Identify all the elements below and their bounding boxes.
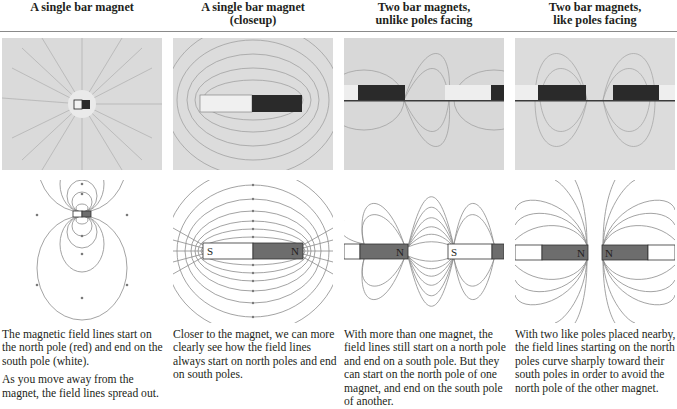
caption-paragraph: Closer to the magnet, we can more clearl… — [173, 328, 338, 382]
north-label-right: N — [605, 247, 613, 259]
field-line-diagram: N N — [515, 180, 675, 323]
caption-paragraph: As you move away from the magnet, the fi… — [2, 373, 167, 400]
title-line-2: (closeup) — [230, 13, 277, 27]
caption: Closer to the magnet, we can more clearl… — [173, 328, 338, 387]
field-line-diagram: N S — [344, 180, 504, 323]
caption-paragraph: With more than one magnet, the field lin… — [344, 328, 509, 408]
iron-filings-photo — [173, 38, 333, 170]
iron-filings-photo — [2, 38, 162, 170]
title-line-1: Two bar magnets, — [378, 0, 471, 14]
column-unlike-poles: Two bar magnets,unlike poles facing — [344, 0, 504, 31]
column-title: A single bar magnet(closeup) — [173, 0, 333, 31]
iron-filings-photo — [515, 38, 675, 170]
caption-paragraph: The magnetic field lines start on the no… — [2, 328, 167, 368]
north-label-left: N — [577, 247, 585, 259]
north-label: N — [396, 246, 404, 258]
caption: With two like poles placed nearby, the f… — [515, 328, 677, 400]
title-line-1: Two bar magnets, — [549, 0, 642, 14]
south-label: S — [207, 245, 213, 257]
caption-paragraph: With two like poles placed nearby, the f… — [515, 328, 677, 395]
caption: With more than one magnet, the field lin… — [344, 328, 509, 409]
column-title: Two bar magnets,like poles facing — [515, 0, 675, 31]
title-line-1: A single bar magnet — [30, 0, 134, 14]
column-title: A single bar magnet — [2, 0, 162, 31]
field-line-diagram: S N — [173, 180, 333, 323]
south-label: S — [451, 246, 457, 258]
north-pole — [82, 211, 91, 217]
north-label: N — [291, 245, 299, 257]
column-title: Two bar magnets,unlike poles facing — [344, 0, 504, 31]
column-like-poles: Two bar magnets,like poles facing — [515, 0, 675, 31]
field-line-diagram — [2, 180, 162, 323]
title-line-1: A single bar magnet — [201, 0, 305, 14]
title-line-2: unlike poles facing — [376, 13, 473, 27]
caption: The magnetic field lines start on the no… — [2, 328, 167, 405]
iron-filings-photo — [344, 38, 504, 170]
column-single-magnet: A single bar magnet — [2, 0, 162, 31]
column-single-magnet-closeup: A single bar magnet(closeup) S N — [173, 0, 333, 31]
header-divider — [0, 31, 677, 32]
south-pole — [73, 211, 82, 217]
title-line-2: like poles facing — [553, 13, 636, 27]
